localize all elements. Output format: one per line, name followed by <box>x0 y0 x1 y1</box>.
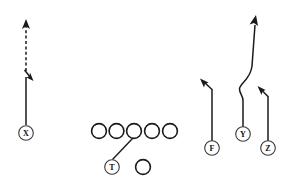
player-label-y: Y <box>240 130 246 139</box>
player-marker-f[interactable]: F <box>205 141 220 156</box>
player-marker-z[interactable]: Z <box>261 141 276 156</box>
route-y-arrowhead <box>250 15 259 26</box>
lineman-circle <box>163 124 178 139</box>
football-play-diagram: X T F Y Z <box>0 0 297 193</box>
route-t <box>113 138 134 160</box>
player-label-f: F <box>210 144 215 153</box>
route-f <box>200 79 212 142</box>
player-label-x: X <box>23 129 29 138</box>
player-label-t: T <box>109 163 115 172</box>
player-marker-x[interactable]: X <box>19 126 34 141</box>
route-x <box>22 19 34 125</box>
player-marker-y[interactable]: Y <box>236 127 251 142</box>
route-z <box>258 86 269 141</box>
backfield-circles <box>136 160 151 175</box>
offensive-line <box>92 124 178 139</box>
play-diagram-canvas: X T F Y Z <box>0 0 297 193</box>
lineman-circle <box>109 124 124 139</box>
lineman-circle <box>92 124 107 139</box>
player-label-z: Z <box>265 144 270 153</box>
route-y-path <box>240 25 256 127</box>
route-t-path <box>113 138 134 160</box>
back-circle <box>136 160 151 175</box>
route-y <box>240 15 259 127</box>
lineman-circle <box>145 124 160 139</box>
route-f-arrowhead <box>200 79 209 88</box>
lineman-circle <box>127 124 142 139</box>
player-marker-t[interactable]: T <box>105 160 120 175</box>
